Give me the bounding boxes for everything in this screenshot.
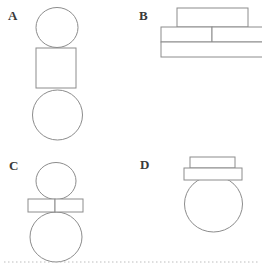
- panel-c-large-circle: [30, 212, 82, 262]
- panel-c-bar-left: [28, 199, 55, 212]
- panel-label-b: B: [139, 9, 148, 22]
- panel-label-a: A: [8, 9, 18, 22]
- panel-d-top-bar: [190, 157, 235, 168]
- panel-a-square: [36, 48, 76, 88]
- panel-a-small-circle: [36, 8, 78, 48]
- panel-d-shapes: [184, 157, 243, 232]
- figure-canvas: A B C D: [0, 0, 262, 267]
- panel-label-c: C: [9, 159, 19, 172]
- panel-b-bottom-bar: [161, 42, 262, 57]
- panel-a-large-circle: [33, 90, 83, 140]
- panel-d-wide-bar: [184, 168, 242, 180]
- panel-label-d: D: [140, 158, 150, 171]
- panel-c-bar-right: [55, 199, 83, 212]
- panel-b-top-bar: [177, 8, 248, 27]
- panel-b-middle-bar-right: [212, 27, 262, 42]
- panel-c-small-circle: [36, 163, 76, 200]
- shapes-layer: [0, 0, 262, 267]
- panel-a-shapes: [33, 8, 83, 141]
- panel-c-shapes: [28, 163, 83, 263]
- panel-d-large-circle: [185, 176, 243, 232]
- panel-b-middle-bar-left: [161, 27, 212, 42]
- panel-b-shapes: [161, 8, 262, 57]
